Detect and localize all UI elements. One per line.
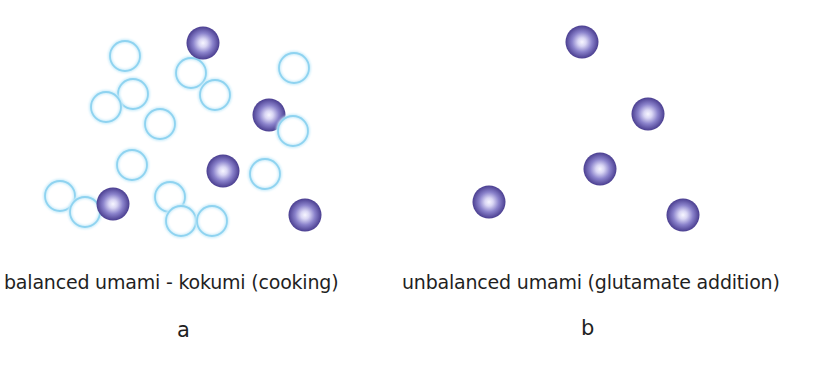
umami-molecule-icon: [566, 26, 599, 59]
caption-panel-a: balanced umami - kokumi (cooking): [4, 271, 338, 293]
umami-molecule-icon: [584, 153, 617, 186]
umami-molecule-icon: [667, 199, 700, 232]
panel-b-molecules: [473, 26, 700, 232]
umami-molecule-icon: [187, 27, 220, 60]
umami-molecule-icon: [97, 188, 130, 221]
panel-letter-a: a: [177, 318, 190, 342]
panel-a-molecules: [45, 27, 322, 237]
panel-letter-b: b: [581, 316, 594, 340]
caption-panel-b: unbalanced umami (glutamate addition): [402, 271, 780, 293]
umami-molecule-icon: [473, 186, 506, 219]
umami-molecule-icon: [632, 98, 665, 131]
umami-molecule-icon: [207, 155, 240, 188]
umami-kokumi-diagram: [0, 0, 828, 366]
umami-molecule-icon: [289, 199, 322, 232]
